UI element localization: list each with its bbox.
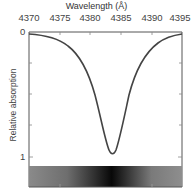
y-ticks [29, 63, 182, 157]
absorption-curve [29, 34, 182, 154]
plot-frame [29, 32, 182, 187]
spectrum-strip [29, 166, 182, 187]
plot-area [0, 0, 193, 190]
